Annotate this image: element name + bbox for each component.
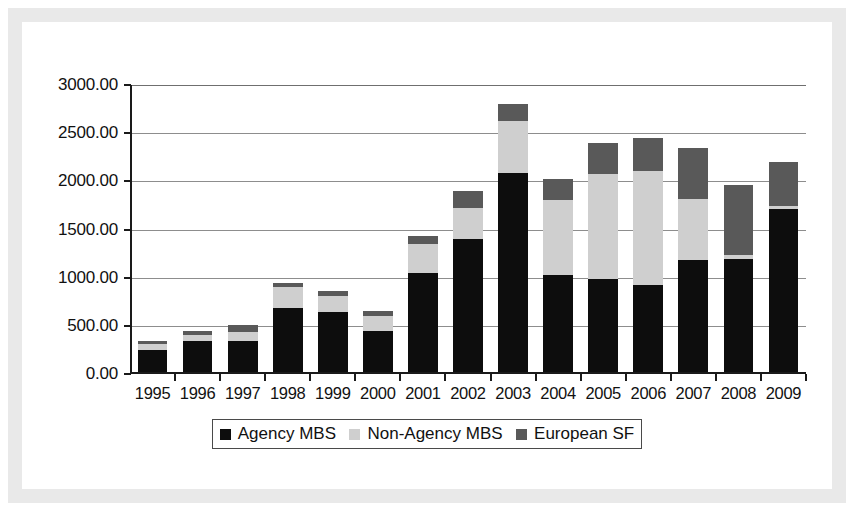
bar-segment-agency-2004	[543, 275, 573, 374]
bar-segment-agency-2008	[724, 259, 754, 374]
bar-2009	[769, 162, 799, 374]
x-tick-mark	[354, 374, 356, 381]
x-tick-mark	[490, 374, 492, 381]
bar-segment-agency-2006	[633, 285, 663, 374]
x-tick-mark	[580, 374, 582, 381]
gridline	[130, 85, 806, 86]
bar-2005	[588, 143, 618, 374]
x-tick-mark	[760, 374, 762, 381]
x-tick-label-2002: 2002	[450, 384, 486, 403]
bar-segment-agency-1997	[228, 341, 258, 374]
chart-canvas: 0.00500.001000.001500.002000.002500.0030…	[22, 22, 832, 489]
bar-1996	[183, 331, 213, 374]
x-tick-mark	[715, 374, 717, 381]
bar-segment-nonagency-1998	[273, 287, 303, 308]
legend-swatch-icon-euro	[516, 429, 527, 440]
legend-swatch-icon-agency	[220, 429, 231, 440]
bar-segment-euro-2009	[769, 162, 799, 206]
bar-segment-agency-1995	[138, 350, 168, 374]
legend-label: European SF	[534, 424, 634, 444]
bar-2000	[363, 311, 393, 374]
bar-segment-euro-2007	[678, 148, 708, 199]
bar-segment-euro-1999	[318, 291, 348, 296]
bar-segment-agency-1999	[318, 312, 348, 374]
bar-segment-agency-2005	[588, 279, 618, 374]
x-tick-label-2000: 2000	[360, 384, 396, 403]
bar-2007	[678, 148, 708, 374]
x-tick-label-2005: 2005	[585, 384, 621, 403]
legend-swatch-icon-nonagency	[349, 429, 360, 440]
bar-segment-euro-1998	[273, 283, 303, 287]
x-tick-mark	[670, 374, 672, 381]
bar-segment-euro-2004	[543, 179, 573, 199]
x-tick-label-1999: 1999	[315, 384, 351, 403]
bar-1997	[228, 325, 258, 374]
bar-1995	[138, 341, 168, 374]
bar-segment-euro-1995	[138, 341, 168, 344]
x-tick-label-1995: 1995	[135, 384, 171, 403]
legend-item-nonagency: Non-Agency MBS	[349, 424, 502, 444]
bar-segment-agency-2001	[408, 273, 438, 374]
bar-segment-euro-2001	[408, 236, 438, 244]
x-tick-label-2009: 2009	[766, 384, 802, 403]
bar-segment-nonagency-2003	[498, 121, 528, 173]
x-tick-mark	[535, 374, 537, 381]
x-tick-label-2001: 2001	[405, 384, 441, 403]
bar-segment-nonagency-1997	[228, 332, 258, 341]
bar-segment-agency-1998	[273, 308, 303, 374]
bar-segment-nonagency-1999	[318, 296, 348, 312]
bar-segment-euro-2005	[588, 143, 618, 174]
bar-segment-nonagency-1996	[183, 335, 213, 341]
legend-label: Agency MBS	[238, 424, 336, 444]
x-tick-label-2003: 2003	[495, 384, 531, 403]
x-tick-label-2006: 2006	[631, 384, 667, 403]
x-axis-line	[130, 372, 806, 374]
bar-segment-agency-1996	[183, 341, 213, 374]
y-tick-label: 500.00	[67, 316, 118, 336]
bar-2001	[408, 236, 438, 374]
bar-2002	[453, 191, 483, 374]
gridline	[130, 133, 806, 134]
scanned-page: 0.00500.001000.001500.002000.002500.0030…	[0, 0, 854, 511]
bar-segment-nonagency-2001	[408, 244, 438, 273]
x-tick-label-1997: 1997	[225, 384, 261, 403]
x-tick-mark	[309, 374, 311, 381]
bar-segment-euro-1997	[228, 325, 258, 332]
bar-segment-nonagency-2008	[724, 255, 754, 260]
bar-segment-euro-2000	[363, 311, 393, 316]
x-tick-mark	[805, 374, 807, 381]
y-tick-label: 0.00	[86, 364, 118, 384]
bar-segment-nonagency-2002	[453, 208, 483, 239]
bar-2004	[543, 179, 573, 374]
bar-segment-euro-1996	[183, 331, 213, 336]
x-tick-mark	[219, 374, 221, 381]
y-tick-label: 1000.00	[58, 268, 118, 288]
y-axis-line	[130, 85, 132, 374]
bar-1998	[273, 283, 303, 374]
legend-item-euro: European SF	[516, 424, 634, 444]
bar-segment-nonagency-2000	[363, 316, 393, 331]
bar-2003	[498, 104, 528, 374]
bar-segment-euro-2002	[453, 191, 483, 208]
x-tick-label-2008: 2008	[721, 384, 757, 403]
bar-segment-agency-2000	[363, 331, 393, 374]
bar-segment-euro-2003	[498, 104, 528, 120]
x-tick-label-1998: 1998	[270, 384, 306, 403]
legend-label: Non-Agency MBS	[367, 424, 502, 444]
legend-item-agency: Agency MBS	[220, 424, 336, 444]
bar-segment-nonagency-2005	[588, 174, 618, 279]
bar-1999	[318, 291, 348, 374]
bar-segment-agency-2002	[453, 239, 483, 374]
x-tick-mark	[174, 374, 176, 381]
y-tick-label: 3000.00	[58, 75, 118, 95]
bar-segment-euro-2008	[724, 185, 754, 254]
y-tick-label: 1500.00	[58, 220, 118, 240]
x-tick-mark	[444, 374, 446, 381]
y-tick-label: 2500.00	[58, 123, 118, 143]
y-tick-label: 2000.00	[58, 171, 118, 191]
bar-segment-nonagency-2009	[769, 206, 799, 209]
x-tick-label-2007: 2007	[676, 384, 712, 403]
bar-segment-nonagency-2007	[678, 199, 708, 261]
x-tick-label-2004: 2004	[540, 384, 576, 403]
x-tick-mark	[399, 374, 401, 381]
